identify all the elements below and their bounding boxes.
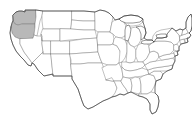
- us-map-svg: [0, 0, 192, 119]
- state-montana[interactable]: [42, 11, 72, 29]
- state-wyoming[interactable]: [41, 29, 60, 41]
- state-alabama[interactable]: [131, 77, 141, 94]
- us-map-figure: Map of the contiguous United States: [0, 0, 192, 119]
- state-washington[interactable]: [13, 10, 36, 25]
- state-kansas[interactable]: [70, 38, 98, 54]
- state-north-dakota[interactable]: [72, 11, 95, 21]
- state-iowa[interactable]: [97, 32, 114, 45]
- state-oklahoma[interactable]: [70, 52, 102, 64]
- state-new-mexico[interactable]: [51, 54, 72, 76]
- state-colorado[interactable]: [51, 41, 70, 54]
- state-south-dakota[interactable]: [71, 20, 95, 30]
